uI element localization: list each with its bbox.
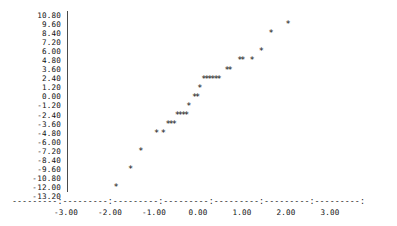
data-point: * bbox=[249, 56, 256, 64]
data-point: * bbox=[127, 165, 134, 173]
data-point: * bbox=[239, 56, 246, 64]
data-point: * bbox=[196, 84, 203, 92]
x-axis-line: ---------:---------:---------:---------:… bbox=[12, 196, 397, 207]
x-axis-tick-label: -3.00 bbox=[44, 207, 88, 218]
data-point: * bbox=[183, 111, 190, 119]
x-axis-tick-labels: -3.00-2.00-1.000.001.002.003.00 bbox=[0, 207, 397, 219]
x-axis-tick-label: 3.00 bbox=[308, 207, 352, 218]
data-point: * bbox=[216, 75, 223, 83]
x-axis-tick-label: 2.00 bbox=[264, 207, 308, 218]
data-point: * bbox=[194, 93, 201, 101]
data-point: * bbox=[185, 102, 192, 110]
ascii-scatter-plot: 10.809.608.407.206.004.803.602.401.200.0… bbox=[0, 0, 397, 226]
x-axis-tick-label: 1.00 bbox=[220, 207, 264, 218]
data-point-layer: ****************************** bbox=[0, 0, 397, 226]
data-point: * bbox=[113, 183, 120, 191]
data-point: * bbox=[160, 129, 167, 137]
x-axis-tick-label: 0.00 bbox=[176, 207, 220, 218]
data-point: * bbox=[137, 147, 144, 155]
x-axis-tick-label: -1.00 bbox=[132, 207, 176, 218]
x-axis-tick-label: -2.00 bbox=[88, 207, 132, 218]
data-point: * bbox=[227, 66, 234, 74]
data-point: * bbox=[171, 120, 178, 128]
data-point: * bbox=[268, 29, 275, 37]
data-point: * bbox=[258, 47, 265, 55]
data-point: * bbox=[285, 20, 292, 28]
